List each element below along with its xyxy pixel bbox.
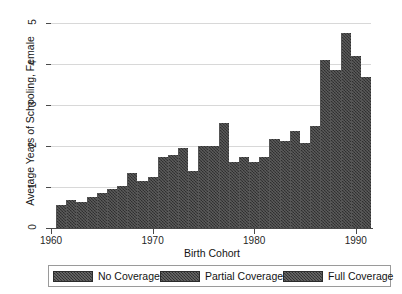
bar [208,146,218,228]
bar [219,123,229,228]
chart-legend: No CoveragePartial CoverageFull Coverage [48,265,391,287]
bar [300,143,310,228]
y-tick-label: 1 [28,175,38,197]
bar [56,205,66,228]
y-tick-label-container: 5 [22,17,44,29]
bar [87,197,97,228]
legend-label: Full Coverage [328,270,393,282]
gridline [51,23,371,24]
x-tick-mark [51,229,52,234]
legend-item[interactable]: Partial Coverage [160,270,283,282]
legend-item[interactable]: No Coverage [53,270,160,282]
bar [137,181,147,228]
bar [127,173,137,228]
y-tick-mark [46,187,51,188]
legend-item[interactable]: Full Coverage [283,270,393,282]
y-tick-label: 5 [28,11,38,33]
y-tick-label: 3 [28,93,38,115]
bar [351,56,361,228]
bar [310,126,320,229]
legend-swatch-icon [53,271,93,282]
bar [229,162,239,228]
x-tick-label: 1990 [334,235,378,246]
y-tick-label-container: 1 [22,181,44,193]
x-tick-mark [254,229,255,234]
bar [66,200,76,228]
bar [249,162,259,228]
bar [97,193,107,228]
x-axis-title: Birth Cohort [51,247,373,259]
bar [290,131,300,228]
legend-label: Partial Coverage [205,270,283,282]
bar [259,157,269,228]
bar [320,60,330,228]
bar [158,157,168,228]
y-tick-label-container: 0 [22,222,44,234]
bar [76,202,86,228]
bar [117,186,127,228]
x-tick-label: 1970 [131,235,175,246]
x-tick-mark [153,229,154,234]
bar [168,155,178,228]
bar [107,189,117,228]
y-tick-label-container: 4 [22,58,44,70]
chart-figure: Average Years of Schooling, Female 01234… [0,0,402,294]
bar [269,139,279,228]
x-tick-mark [356,229,357,234]
bar [188,171,198,228]
legend-swatch-icon [283,271,323,282]
y-tick-label: 4 [28,52,38,74]
y-tick-mark [46,105,51,106]
bar [178,148,188,228]
bar [341,33,351,228]
bar [198,146,208,228]
plot-area [51,23,371,228]
bar [239,157,249,228]
x-tick-label: 1980 [232,235,276,246]
y-tick-mark [46,23,51,24]
legend-swatch-icon [160,271,200,282]
y-tick-mark [46,64,51,65]
bar [361,77,371,228]
y-tick-label-container: 2 [22,140,44,152]
bar [148,177,158,228]
y-tick-label-container: 3 [22,99,44,111]
bar [330,70,340,228]
plot-wrapper: Average Years of Schooling, Female 01234… [0,0,402,250]
legend-label: No Coverage [98,270,160,282]
x-axis-line [51,228,373,229]
bar [280,141,290,228]
y-tick-mark [46,146,51,147]
y-tick-label: 2 [28,134,38,156]
x-tick-label: 1960 [29,235,73,246]
